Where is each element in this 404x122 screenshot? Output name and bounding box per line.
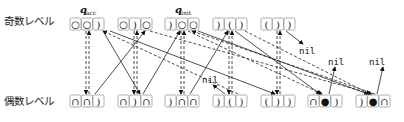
- svg-text:): ): [240, 96, 244, 107]
- svg-text:): ): [288, 19, 292, 30]
- nil-label: nil: [369, 57, 385, 67]
- svg-text:∩: ∩: [83, 96, 91, 107]
- svg-text:): ): [217, 19, 221, 30]
- even-level-label: 偶数レベル: [4, 95, 54, 107]
- even-config-6: ∩●): [308, 95, 342, 107]
- odd-config-3: )○○: [165, 18, 199, 30]
- svg-text:): ): [276, 19, 280, 30]
- svg-text:): ): [276, 96, 280, 107]
- svg-text:○: ○: [71, 19, 80, 30]
- odd-row: ○○) ○)○ )○○ )() ()): [70, 18, 295, 30]
- even-config-2: ∩)∩: [118, 95, 152, 107]
- svg-text:●: ●: [321, 96, 330, 107]
- svg-text:(: (: [265, 96, 269, 107]
- svg-text:∩: ∩: [142, 96, 150, 107]
- svg-text:∩: ∩: [119, 96, 127, 107]
- even-row: ∩∩) ∩)∩ )∩∩ )() ()) ∩●) )●∩: [70, 95, 390, 107]
- svg-text:∩: ∩: [71, 96, 79, 107]
- svg-text:∩: ∩: [178, 96, 186, 107]
- svg-text:(: (: [228, 19, 232, 30]
- odd-config-2: ○)○: [118, 18, 152, 30]
- even-config-7: )●∩: [356, 95, 390, 107]
- even-config-5: ()): [261, 95, 295, 107]
- svg-text:∩: ∩: [189, 96, 197, 107]
- svg-text:∩: ∩: [309, 96, 317, 107]
- svg-text:●: ●: [369, 96, 378, 107]
- svg-text:): ): [97, 19, 101, 30]
- svg-text:(: (: [265, 19, 269, 30]
- q-init-label: q init: [175, 4, 192, 16]
- svg-text:∩: ∩: [380, 96, 388, 107]
- svg-text:(: (: [228, 96, 232, 107]
- svg-text:○: ○: [142, 19, 151, 30]
- svg-text:): ): [133, 19, 137, 30]
- nil-label: nil: [202, 75, 218, 85]
- svg-text:○: ○: [119, 19, 128, 30]
- svg-text:): ): [360, 96, 364, 107]
- nil-label: nil: [299, 46, 315, 56]
- even-config-4: )(): [213, 95, 247, 107]
- odd-config-1: ○○): [70, 18, 104, 30]
- svg-text:): ): [335, 96, 339, 107]
- odd-config-4: )(): [213, 18, 247, 30]
- even-config-3: )∩∩: [165, 95, 199, 107]
- svg-text:acc: acc: [86, 9, 97, 16]
- svg-text:): ): [288, 96, 292, 107]
- odd-level-label: 奇数レベル: [4, 15, 54, 27]
- svg-text:): ): [133, 96, 137, 107]
- svg-text:○: ○: [178, 19, 187, 30]
- svg-text:): ): [169, 19, 173, 30]
- q-acc-label: q acc: [80, 4, 97, 16]
- even-config-1: ∩∩): [70, 95, 104, 107]
- svg-text:○: ○: [83, 19, 92, 30]
- svg-text:): ): [240, 19, 244, 30]
- nil-label: nil: [328, 57, 344, 67]
- svg-text:○: ○: [189, 19, 198, 30]
- configuration-diagram: 奇数レベル 偶数レベル q acc q init: [0, 0, 404, 122]
- svg-text:): ): [217, 96, 221, 107]
- svg-text:): ): [169, 96, 173, 107]
- svg-text:init: init: [181, 9, 192, 16]
- svg-text:): ): [97, 96, 101, 107]
- odd-config-5: ()): [261, 18, 295, 30]
